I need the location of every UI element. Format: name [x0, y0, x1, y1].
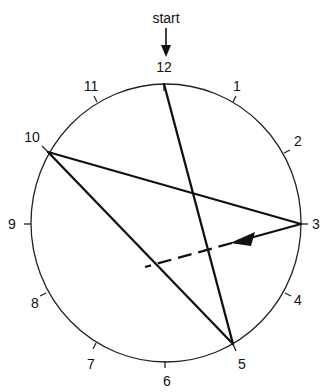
dashed-arrow-head [230, 232, 255, 246]
line-3-to-arrow [250, 224, 301, 238]
dashed-line [145, 243, 232, 267]
line-5-to-10 [48, 152, 233, 344]
hour-12: 12 [156, 59, 172, 75]
hour-2: 2 [294, 133, 302, 149]
hour-11: 11 [84, 78, 99, 94]
line-10-to-3 [48, 152, 301, 224]
line-12-to-5 [164, 84, 233, 344]
hour-8: 8 [31, 295, 39, 311]
hour-1: 1 [233, 78, 241, 94]
hour-3: 3 [312, 216, 320, 232]
start-label: start [152, 10, 179, 26]
hour-5: 5 [238, 356, 246, 372]
hour-6: 6 [163, 373, 171, 389]
tick-marks [24, 84, 308, 368]
hour-numbers: 12 1 2 3 4 5 6 7 8 9 10 11 [8, 59, 320, 389]
hour-4: 4 [294, 292, 302, 308]
hour-10: 10 [24, 129, 40, 145]
clock-diagram: start 12 1 2 3 4 5 6 7 8 9 10 11 [0, 0, 327, 392]
hour-9: 9 [8, 216, 16, 232]
hour-7: 7 [87, 356, 95, 372]
start-arrow-head [161, 45, 171, 57]
path-lines [48, 84, 301, 344]
clock-circle [31, 84, 301, 362]
